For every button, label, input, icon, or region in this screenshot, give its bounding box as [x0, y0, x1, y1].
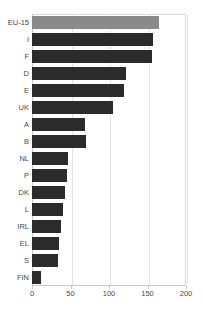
category-label-a: A	[0, 120, 29, 129]
bar-row	[32, 150, 186, 167]
bar-e	[32, 84, 124, 97]
category-label-nl: NL	[0, 154, 29, 163]
x-axis-labels: 050100150200	[32, 289, 186, 303]
bar-row	[32, 82, 186, 99]
bar-row	[32, 269, 186, 286]
category-label-uk: UK	[0, 103, 29, 112]
category-label-fin: FIN	[0, 273, 29, 282]
bar-row	[32, 133, 186, 150]
gridline-200	[187, 15, 188, 285]
bar-el	[32, 237, 59, 250]
bar-irl	[32, 220, 61, 233]
bar-row	[32, 167, 186, 184]
bar-row	[32, 31, 186, 48]
category-label-e: E	[0, 86, 29, 95]
x-tick-label-100: 100	[103, 289, 116, 298]
bar-row	[32, 184, 186, 201]
category-label-d: D	[0, 69, 29, 78]
bar-l	[32, 203, 63, 216]
x-tick-label-0: 0	[30, 289, 34, 298]
bar-a	[32, 118, 85, 131]
category-label-dk: DK	[0, 188, 29, 197]
bar-fin	[32, 271, 41, 284]
bar-d	[32, 67, 126, 80]
bar-chart: EU-15IFDEUKABNLPDKLIRLELSFIN 05010015020…	[0, 0, 203, 315]
category-label-i: I	[0, 35, 29, 44]
bar-row	[32, 14, 186, 31]
category-label-irl: IRL	[0, 222, 29, 231]
bar-eu-15	[32, 16, 159, 29]
x-tick-label-200: 200	[180, 289, 193, 298]
category-label-eu-15: EU-15	[0, 18, 29, 27]
category-label-el: EL	[0, 239, 29, 248]
bar-f	[32, 50, 152, 63]
bar-row	[32, 252, 186, 269]
bars-layer	[32, 14, 186, 286]
bar-p	[32, 169, 67, 182]
category-label-b: B	[0, 137, 29, 146]
bar-dk	[32, 186, 65, 199]
category-label-s: S	[0, 256, 29, 265]
bar-s	[32, 254, 58, 267]
bar-b	[32, 135, 86, 148]
bar-row	[32, 116, 186, 133]
category-label-l: L	[0, 205, 29, 214]
bar-row	[32, 48, 186, 65]
bar-row	[32, 218, 186, 235]
category-label-p: P	[0, 171, 29, 180]
bar-i	[32, 33, 153, 46]
x-tick-label-50: 50	[66, 289, 74, 298]
x-tick-label-150: 150	[141, 289, 154, 298]
bar-row	[32, 235, 186, 252]
bar-uk	[32, 101, 113, 114]
category-labels: EU-15IFDEUKABNLPDKLIRLELSFIN	[0, 14, 29, 286]
bar-row	[32, 65, 186, 82]
bar-nl	[32, 152, 68, 165]
bar-row	[32, 99, 186, 116]
bar-row	[32, 201, 186, 218]
category-label-f: F	[0, 52, 29, 61]
